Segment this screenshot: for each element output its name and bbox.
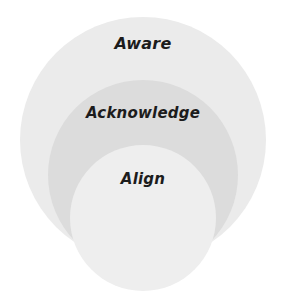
circle-label-align: Align (0, 172, 286, 187)
circle-label-acknowledge: Acknowledge (0, 106, 286, 121)
circle-align (70, 145, 216, 291)
circle-label-aware: Aware (0, 36, 286, 52)
nested-circles-diagram: Aware Acknowledge Align (0, 0, 286, 297)
